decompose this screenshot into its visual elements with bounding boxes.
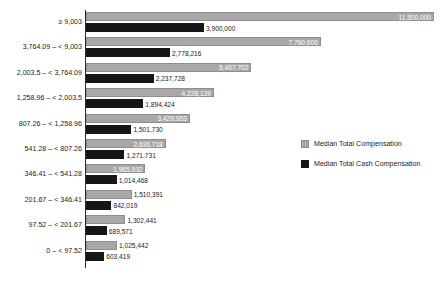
legend-item[interactable]: Median Total Compensation [301,140,420,148]
bar-group: 1,025,442603,419 [86,241,117,261]
category-label: 1,258.96 – < 2,003.5 [2,94,82,102]
bar-median-total-cash-compensation[interactable]: 1,271,731 [86,150,124,159]
bar-median-total-cash-compensation[interactable]: 689,571 [86,226,107,235]
bar-median-total-cash-compensation[interactable]: 2,237,728 [86,74,154,83]
bar-group: 2,636,7181,271,731 [86,139,166,159]
bar-median-total-compensation[interactable]: 1,025,442 [86,241,117,250]
category-label: ≥ 9,003 [2,18,82,26]
bar-value-label: 1,271,731 [126,151,155,158]
category-label: 2,003.5 – < 3,764.09 [2,69,82,77]
bar-median-total-compensation[interactable]: 2,636,718 [86,139,166,148]
bar-median-total-cash-compensation[interactable]: 603,419 [86,252,104,261]
horizontal-bar-chart: ≥ 9,00311,500,0003,900,0003,764.09 – < 9… [0,0,443,281]
category-label: 541.28 – < 807.26 [2,145,82,153]
bar-median-total-compensation[interactable]: 11,500,000 [86,12,434,21]
bar-value-label: 5,467,702 [219,64,248,71]
legend-label: Median Total Cash Compensation [314,160,420,168]
bar-value-label: 2,237,728 [156,75,185,82]
bar-value-label: 689,571 [109,227,133,234]
bar-group: 4,228,1391,894,424 [86,88,214,108]
bar-value-label: 7,760,606 [288,38,317,45]
legend-swatch [301,140,309,148]
bar-median-total-compensation[interactable]: 1,965,932 [86,164,145,173]
bar-value-label: 11,500,000 [398,13,431,20]
bar-value-label: 1,302,441 [127,216,156,223]
bar-group: 11,500,0003,900,000 [86,12,434,32]
legend-label: Median Total Compensation [314,140,402,148]
bar-median-total-compensation[interactable]: 3,429,953 [86,114,190,123]
bar-median-total-cash-compensation[interactable]: 2,778,216 [86,48,170,57]
bar-value-label: 1,025,442 [119,242,148,249]
category-label: 3,764.09 – < 9,003 [2,43,82,51]
category-label: 0 – < 97.52 [2,247,82,255]
bar-median-total-cash-compensation[interactable]: 3,900,000 [86,23,204,32]
bar-value-label: 3,429,953 [157,115,186,122]
bar-group: 1,302,441689,571 [86,215,125,235]
bar-median-total-cash-compensation[interactable]: 1,501,730 [86,125,131,134]
bar-value-label: 1,965,932 [113,165,142,172]
bar-group: 3,429,9531,501,730 [86,114,190,134]
legend-swatch [301,160,309,168]
bar-value-label: 2,778,216 [172,49,201,56]
bar-group: 5,467,7022,237,728 [86,63,251,83]
bar-median-total-compensation[interactable]: 7,760,606 [86,37,321,46]
legend-item[interactable]: Median Total Cash Compensation [301,160,420,168]
bar-value-label: 1,501,730 [133,126,162,133]
bar-value-label: 1,014,468 [119,176,148,183]
bar-median-total-cash-compensation[interactable]: 1,014,468 [86,175,117,184]
bar-value-label: 1,894,424 [145,100,174,107]
bar-value-label: 1,510,391 [134,191,163,198]
bar-median-total-compensation[interactable]: 4,228,139 [86,88,214,97]
category-label: 97.52 – < 201.67 [2,221,82,229]
bar-median-total-cash-compensation[interactable]: 1,894,424 [86,99,143,108]
category-label: 346.41 – < 541.28 [2,170,82,178]
bar-group: 7,760,6062,778,216 [86,37,321,57]
bar-median-total-cash-compensation[interactable]: 842,019 [86,201,111,210]
bar-value-label: 842,019 [113,202,137,209]
bar-group: 1,965,9321,014,468 [86,164,145,184]
chart-legend: Median Total CompensationMedian Total Ca… [301,140,420,180]
bar-median-total-compensation[interactable]: 1,510,391 [86,190,132,199]
bar-median-total-compensation[interactable]: 5,467,702 [86,63,251,72]
bar-value-label: 2,636,718 [133,140,162,147]
category-label: 201.67 – < 346.41 [2,196,82,204]
bar-value-label: 4,228,139 [182,89,211,96]
bar-group: 1,510,391842,019 [86,190,132,210]
bar-median-total-compensation[interactable]: 1,302,441 [86,215,125,224]
bar-value-label: 3,900,000 [206,24,235,31]
bar-value-label: 603,419 [106,253,130,260]
category-label: 807.26 – < 1,258.96 [2,120,82,128]
